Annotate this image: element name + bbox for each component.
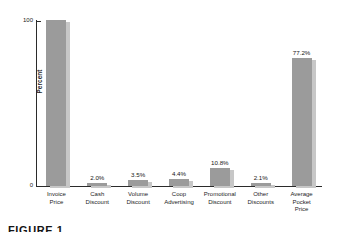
x-axis-category-label: VolumeDiscount xyxy=(118,191,159,206)
bar-group[interactable]: 4.4% xyxy=(169,20,189,186)
figure-caption: FIGURE 1 xyxy=(8,224,64,232)
x-axis-category-label: CashDiscount xyxy=(77,191,118,206)
bar-value-label: 2.1% xyxy=(254,174,268,181)
bar-group[interactable]: 3.5% xyxy=(128,20,148,186)
y-tick-mark-0 xyxy=(37,186,41,187)
bar[interactable] xyxy=(46,20,66,186)
bar[interactable] xyxy=(251,183,271,186)
x-axis-category-label: InvoicePrice xyxy=(36,191,77,206)
plot-area: 2.0%3.5%4.4%10.8%2.1%77.2% xyxy=(36,20,322,186)
bar-group[interactable] xyxy=(46,20,66,186)
bar[interactable] xyxy=(87,183,107,186)
bar-value-label: 3.5% xyxy=(131,171,145,178)
bar[interactable] xyxy=(292,58,312,186)
bar-value-label: 77.2% xyxy=(293,49,311,56)
bar[interactable] xyxy=(210,168,230,186)
bar[interactable] xyxy=(169,179,189,186)
bar-group[interactable]: 2.0% xyxy=(87,20,107,186)
bar[interactable] xyxy=(128,180,148,186)
bar-group[interactable]: 10.8% xyxy=(210,20,230,186)
bar-value-label: 4.4% xyxy=(172,170,186,177)
bar-group[interactable]: 2.1% xyxy=(251,20,271,186)
bar-value-label: 2.0% xyxy=(90,174,104,181)
x-axis-category-label: PromotionalDiscount xyxy=(199,191,240,206)
y-tick-label-0: 0 xyxy=(14,182,33,188)
x-axis-category-label: AveragePocketPrice xyxy=(281,191,322,214)
bar-group[interactable]: 77.2% xyxy=(292,20,312,186)
y-tick-label-100: 100 xyxy=(14,17,33,23)
x-axis-category-label: CoopAdvertising xyxy=(159,191,200,206)
bar-value-label: 10.8% xyxy=(211,159,229,166)
figure-container: Percent 100 0 2.0%3.5%4.4%10.8%2.1%77.2%… xyxy=(0,0,342,232)
x-axis-category-label: OtherDiscounts xyxy=(240,191,281,206)
